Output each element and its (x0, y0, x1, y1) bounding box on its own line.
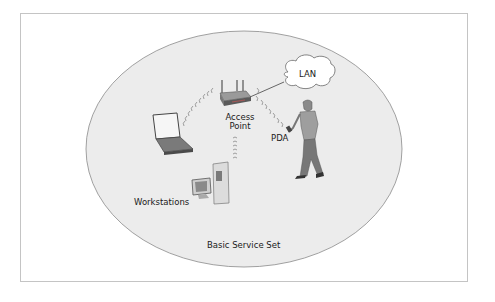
pda-label: PDA (271, 134, 288, 143)
diagram-canvas (0, 0, 495, 302)
workstations-label: Workstations (134, 198, 189, 207)
access-point-label: Access Point (220, 113, 260, 132)
access-point-label-line2: Point (220, 122, 260, 131)
bss-title-label: Basic Service Set (207, 241, 280, 250)
bss-ellipse (86, 31, 402, 267)
lan-label: LAN (299, 70, 316, 79)
